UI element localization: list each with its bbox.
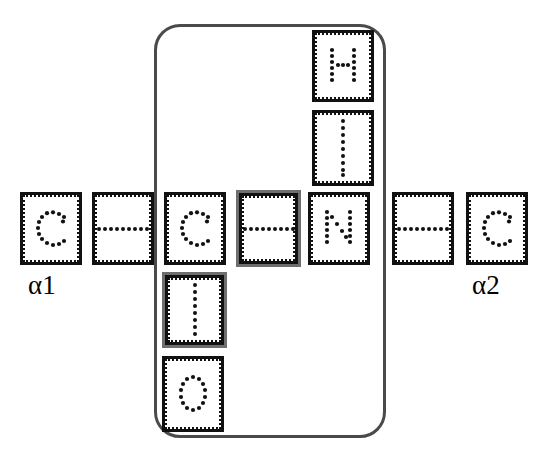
bond-horizontal-icon xyxy=(239,193,298,264)
bond-horizontal-icon xyxy=(392,192,454,265)
tile-h-amide[interactable] xyxy=(312,30,374,102)
letter-c-icon xyxy=(466,192,528,265)
tile-bond-2[interactable] xyxy=(239,193,298,264)
label-alpha2: α2 xyxy=(472,272,500,299)
letter-h-icon xyxy=(312,30,374,102)
bond-vertical-icon xyxy=(312,110,374,186)
label-alpha1: α1 xyxy=(28,272,56,299)
tile-c-alpha1[interactable] xyxy=(20,192,82,265)
tile-bond-1[interactable] xyxy=(92,192,154,265)
bond-vertical-icon xyxy=(165,275,224,345)
tile-bond-nh[interactable] xyxy=(312,110,374,186)
letter-o-icon xyxy=(162,356,224,432)
tile-bond-co[interactable] xyxy=(165,275,224,345)
diagram-canvas: α1 α2 xyxy=(0,0,539,457)
letter-c-icon xyxy=(20,192,82,265)
tile-c-alpha2[interactable] xyxy=(466,192,528,265)
letter-c-icon xyxy=(164,192,226,265)
tile-n-amide[interactable] xyxy=(308,192,370,265)
tile-bond-3[interactable] xyxy=(392,192,454,265)
letter-n-icon xyxy=(308,192,370,265)
bond-horizontal-icon xyxy=(92,192,154,265)
tile-o-carbonyl[interactable] xyxy=(162,356,224,432)
tile-c-carbonyl[interactable] xyxy=(164,192,226,265)
